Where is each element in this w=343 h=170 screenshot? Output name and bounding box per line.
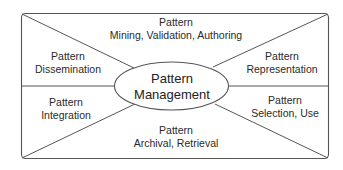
region-lower-left-line2: Integration (41, 109, 91, 122)
region-lower-right-line1: Pattern (251, 94, 319, 107)
region-upper-right-line1: Pattern (246, 50, 317, 63)
region-bottom-line1: Pattern (134, 124, 219, 137)
region-lower-right-line2: Selection, Use (251, 107, 319, 120)
region-bottom-label: Pattern Archival, Retrieval (134, 124, 219, 149)
region-lower-right-label: Pattern Selection, Use (251, 94, 319, 119)
center-line2: Management (134, 86, 210, 102)
region-bottom-line2: Archival, Retrieval (134, 137, 219, 150)
region-upper-right-label: Pattern Representation (246, 50, 317, 75)
region-upper-right-line2: Representation (246, 63, 317, 76)
region-top-line2: Mining, Validation, Authoring (110, 29, 242, 42)
center-label: Pattern Management (134, 71, 210, 102)
region-top-label: Pattern Mining, Validation, Authoring (110, 16, 242, 41)
region-top-line1: Pattern (110, 16, 242, 29)
region-upper-left-line1: Pattern (35, 50, 101, 63)
region-lower-left-label: Pattern Integration (41, 96, 91, 121)
region-upper-left-label: Pattern Dissemination (35, 50, 101, 75)
region-upper-left-line2: Dissemination (35, 63, 101, 76)
center-line1: Pattern (134, 71, 210, 87)
region-lower-left-line1: Pattern (41, 96, 91, 109)
